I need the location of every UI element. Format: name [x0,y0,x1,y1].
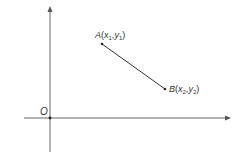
point-b-label: B(x2,y2) [169,84,199,95]
x-axis-arrow-icon [225,116,231,121]
point-a [101,43,104,46]
coordinate-plane: O A(x1,y1) B(x2,y2) [0,0,243,156]
origin-point [49,117,52,120]
point-b [164,88,167,91]
segment-ab [102,44,165,89]
origin-label: O [40,106,48,117]
point-a-label: A(x1,y1) [94,30,125,41]
y-axis-arrow-icon [48,6,53,12]
